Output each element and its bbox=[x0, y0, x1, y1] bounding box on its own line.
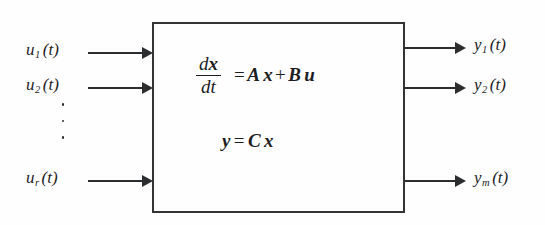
input-label-1-subscript: 1 bbox=[35, 49, 41, 60]
input-label-1-base: u bbox=[26, 40, 35, 59]
input-label-r-base: u bbox=[26, 168, 35, 187]
state-space-block-diagram: u1(t) u2(t) ur(t) dx dt =Ax+Bu y=Cx bbox=[0, 0, 545, 225]
output-label-2-argument: (t) bbox=[487, 75, 506, 94]
output-label-2-base: y bbox=[474, 75, 482, 94]
input-label-2-subscript: 2 bbox=[35, 84, 41, 95]
input-label-1-argument: (t) bbox=[40, 40, 59, 59]
input-label-2-argument: (t) bbox=[40, 75, 59, 94]
state-space-system-block bbox=[152, 22, 405, 213]
output-arrow-m bbox=[405, 175, 467, 187]
input-arrow-2 bbox=[88, 82, 154, 94]
ellipsis-dot bbox=[62, 120, 65, 123]
output-arrow-1 bbox=[405, 42, 467, 54]
input-label-1: u1(t) bbox=[26, 40, 59, 60]
output-label-2-subscript: 2 bbox=[482, 84, 488, 95]
ellipsis-dot bbox=[62, 136, 65, 139]
output-label-1-argument: (t) bbox=[487, 35, 506, 54]
input-label-r-argument: (t) bbox=[39, 168, 58, 187]
input-label-2-base: u bbox=[26, 75, 35, 94]
output-label-m-base: y bbox=[474, 168, 482, 187]
input-arrow-1 bbox=[88, 47, 154, 59]
input-label-2: u2(t) bbox=[26, 75, 59, 95]
output-label-1-base: y bbox=[474, 35, 482, 54]
output-arrow-2 bbox=[405, 82, 467, 94]
output-label-1: y1(t) bbox=[474, 35, 506, 55]
ellipsis-dot bbox=[62, 103, 65, 106]
input-arrow-r bbox=[88, 175, 154, 187]
input-label-r-subscript: r bbox=[35, 177, 40, 188]
output-label-2: y2(t) bbox=[474, 75, 506, 95]
output-label-m-argument: (t) bbox=[490, 168, 509, 187]
vertical-ellipsis-icon bbox=[57, 103, 69, 139]
output-label-m-subscript: m bbox=[482, 177, 490, 188]
output-label-m: ym(t) bbox=[474, 168, 508, 188]
output-label-1-subscript: 1 bbox=[482, 44, 488, 55]
input-label-r: ur(t) bbox=[26, 168, 58, 188]
